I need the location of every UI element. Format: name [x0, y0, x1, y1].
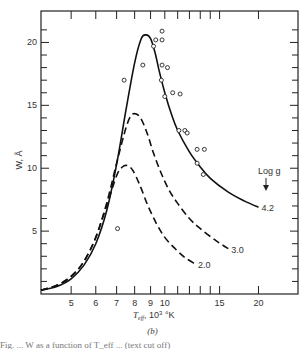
svg-text:Teff, 103 °K: Teff, 103 °K	[133, 310, 174, 321]
x-tick-label: 20	[253, 298, 263, 308]
data-point-circle	[116, 227, 120, 231]
data-point-circle	[202, 147, 206, 151]
x-tick-label: 10	[160, 298, 170, 308]
data-point-circle	[201, 173, 205, 177]
panel-label: (b)	[0, 326, 305, 336]
y-axis-title: W, Å	[14, 150, 24, 169]
legend-title: Log g	[258, 166, 281, 191]
observed-points	[116, 29, 207, 230]
chart: 567891015205101520 4.23.02.0 Log g Teff,…	[0, 0, 305, 349]
curve-label: 2.0	[198, 260, 211, 270]
axis-ticks	[41, 11, 298, 294]
data-point-circle	[152, 44, 156, 48]
data-point-circle	[160, 29, 164, 33]
x-tick-label: 8	[132, 298, 137, 308]
data-point-circle	[165, 66, 169, 70]
data-point-circle	[154, 38, 158, 42]
model-curves	[41, 35, 259, 290]
data-point-circle	[177, 128, 181, 132]
curve-logg-4.2	[41, 35, 259, 290]
y-tick-label: 20	[27, 37, 37, 47]
x-tick-label: 9	[148, 298, 153, 308]
x-axis-title: Teff, 103 °K	[133, 310, 174, 321]
x-axis-title-rest: , 10	[144, 310, 159, 320]
arrow-head-icon	[263, 185, 269, 191]
axis-tick-labels: 567891015205101520	[27, 37, 263, 308]
data-point-circle	[160, 38, 164, 42]
x-tick-label: 5	[69, 298, 74, 308]
data-point-circle	[160, 63, 164, 67]
legend-title-text: Log g	[258, 166, 281, 176]
x-tick-label: 15	[215, 298, 225, 308]
data-point-circle	[171, 91, 175, 95]
data-point-circle	[159, 78, 163, 82]
curve-label: 4.2	[261, 203, 274, 213]
data-point-circle	[195, 161, 199, 165]
data-point-circle	[141, 63, 145, 67]
y-axis-title-text: W, Å	[14, 150, 24, 169]
x-tick-label: 7	[114, 298, 119, 308]
plot-frame	[41, 11, 298, 294]
data-point-circle	[178, 92, 182, 96]
x-axis-title-unit: °K	[162, 310, 174, 320]
figure-caption-fragment: Fig. ... W as a function of T_eff ... (t…	[0, 340, 305, 349]
data-point-circle	[122, 78, 126, 82]
data-point-circle	[163, 95, 167, 99]
y-tick-label: 10	[27, 163, 37, 173]
data-point-circle	[185, 131, 189, 135]
y-tick-label: 5	[32, 226, 37, 236]
curve-label: 3.0	[231, 245, 244, 255]
data-point-circle	[195, 147, 199, 151]
y-tick-label: 15	[27, 100, 37, 110]
x-tick-label: 6	[93, 298, 98, 308]
